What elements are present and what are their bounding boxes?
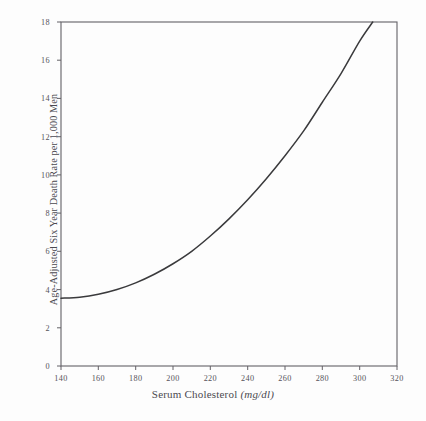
x-axis-ticks [61, 366, 397, 370]
x-tick-label: 180 [129, 374, 142, 383]
data-curve [61, 22, 373, 298]
chart-figure: 0 2 4 6 8 10 12 14 16 18 140 160 180 200… [0, 0, 426, 421]
x-axis-title: Serum Cholesterol (mg/dl) [0, 388, 426, 400]
x-axis-title-text: Serum Cholesterol [152, 388, 238, 400]
x-tick-label: 300 [353, 374, 366, 383]
y-axis-title: Age-Adjusted Six Year Death Rate per 1,0… [48, 50, 59, 350]
x-tick-label: 240 [241, 374, 254, 383]
x-tick-label: 160 [92, 374, 105, 383]
plot-frame [61, 22, 397, 366]
y-tick-label: 0 [32, 362, 50, 371]
x-tick-label: 320 [390, 374, 403, 383]
x-tick-label: 280 [316, 374, 329, 383]
chart-plot-area [0, 0, 426, 421]
x-tick-label: 200 [166, 374, 179, 383]
x-tick-label: 220 [204, 374, 217, 383]
x-tick-label: 260 [278, 374, 291, 383]
y-tick-label: 18 [32, 18, 50, 27]
x-axis-title-unit: (mg/dl) [240, 388, 274, 400]
x-tick-label: 140 [54, 374, 67, 383]
